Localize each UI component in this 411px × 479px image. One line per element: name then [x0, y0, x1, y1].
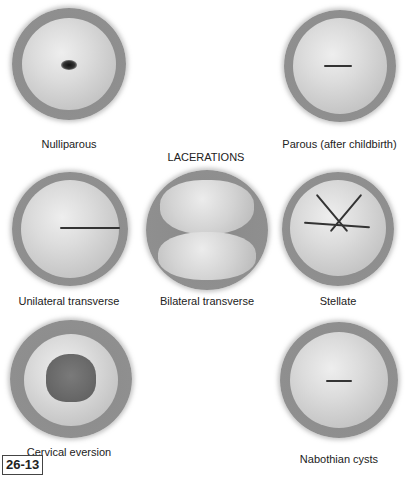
nabothian-cysts-cervix: [280, 322, 398, 438]
nulliparous-cervix: [12, 8, 126, 120]
unilateral-label: Unilateral transverse: [4, 295, 134, 307]
parous-label: Parous (after childbirth): [268, 138, 411, 150]
unilateral-transverse-cervix: [12, 172, 128, 286]
bilateral-transverse-cervix: [146, 170, 268, 290]
cervical-eversion-cervix: [10, 320, 132, 438]
tear-line: [60, 227, 120, 229]
stellate-cervix: [282, 172, 394, 286]
upper-lip: [160, 180, 254, 234]
nabothian-label: Nabothian cysts: [280, 453, 398, 465]
lacerations-heading: LACERATIONS: [148, 151, 264, 163]
os-dot: [61, 60, 77, 70]
nulliparous-label: Nulliparous: [12, 138, 126, 150]
os-slit: [324, 65, 352, 67]
lower-lip: [158, 232, 256, 280]
bilateral-label: Bilateral transverse: [140, 295, 274, 307]
os-slit: [326, 380, 352, 382]
everted-tissue: [46, 354, 96, 402]
figure-number: 26-13: [2, 455, 43, 475]
stellate-label: Stellate: [282, 295, 394, 307]
parous-cervix: [284, 10, 396, 122]
